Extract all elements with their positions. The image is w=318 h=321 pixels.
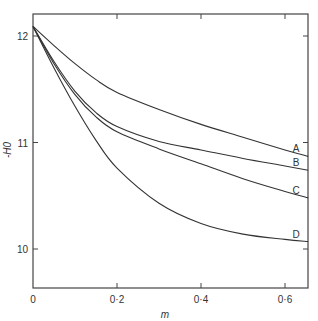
- y-tick-label: 11: [18, 138, 29, 149]
- x-tick-label: 0·4: [194, 294, 209, 305]
- curves: [33, 26, 308, 241]
- y-axis-label: -H0: [2, 142, 13, 159]
- x-tick-label: 0·6: [278, 294, 293, 305]
- curve-label-c: C: [292, 185, 299, 196]
- x-axis-label: m: [161, 309, 169, 320]
- curve-b: [33, 26, 308, 170]
- chart: 00·20·40·6101112m-H0ABCD: [0, 0, 318, 321]
- y-tick-label: 10: [17, 244, 29, 255]
- curve-d: [33, 26, 308, 241]
- curve-label-a: A: [293, 143, 300, 154]
- labels: 00·20·40·6101112m-H0ABCD: [2, 31, 300, 320]
- plot-frame: [33, 14, 308, 288]
- y-tick-label: 12: [17, 31, 29, 42]
- curve-a: [33, 26, 308, 156]
- axis-ticks: [33, 14, 308, 288]
- curve-label-b: B: [293, 157, 300, 168]
- x-tick-label: 0·2: [110, 294, 125, 305]
- plot-area: 00·20·40·6101112m-H0ABCD: [0, 0, 318, 321]
- curve-c: [33, 26, 308, 197]
- curve-label-d: D: [292, 229, 299, 240]
- x-tick-label: 0: [30, 294, 36, 305]
